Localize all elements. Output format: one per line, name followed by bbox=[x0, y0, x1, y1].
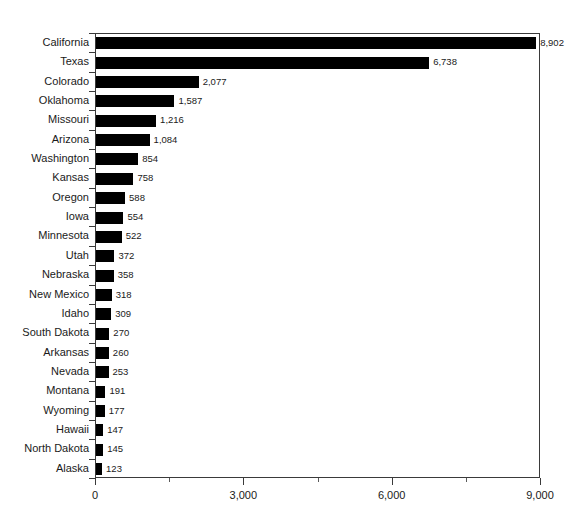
y-axis-tick bbox=[89, 343, 95, 344]
category-label: Texas bbox=[1, 54, 89, 68]
y-axis-tick bbox=[89, 52, 95, 53]
bar[interactable] bbox=[96, 386, 105, 398]
category-label: Idaho bbox=[1, 306, 89, 320]
x-axis-minor-tick bbox=[466, 478, 467, 482]
y-axis-tick bbox=[89, 226, 95, 227]
x-axis-tick bbox=[95, 478, 96, 485]
bar-value-label: 260 bbox=[113, 346, 129, 360]
y-axis-tick bbox=[89, 207, 95, 208]
bar[interactable] bbox=[96, 173, 133, 185]
y-axis-tick bbox=[89, 33, 95, 34]
y-axis-tick bbox=[89, 168, 95, 169]
bar[interactable] bbox=[96, 270, 114, 282]
plot-area: 8,9026,7382,0771,5871,2161,0848547585885… bbox=[95, 33, 540, 478]
bar-row: 123 bbox=[96, 460, 539, 479]
bar[interactable] bbox=[96, 289, 112, 301]
y-axis-tick bbox=[89, 130, 95, 131]
y-axis-tick bbox=[89, 323, 95, 324]
bar[interactable] bbox=[96, 76, 199, 88]
category-label: California bbox=[1, 35, 89, 49]
bar-value-label: 8,902 bbox=[540, 36, 564, 50]
bar-value-label: 588 bbox=[129, 191, 145, 205]
y-axis-tick bbox=[89, 304, 95, 305]
bar-value-label: 554 bbox=[127, 210, 143, 224]
bar-value-label: 270 bbox=[113, 326, 129, 340]
y-axis-tick bbox=[89, 91, 95, 92]
bar-value-label: 2,077 bbox=[203, 75, 227, 89]
category-label: Nevada bbox=[1, 364, 89, 378]
category-label: Utah bbox=[1, 248, 89, 262]
category-label: Alaska bbox=[1, 461, 89, 475]
bar-value-label: 145 bbox=[107, 442, 123, 456]
y-axis-tick bbox=[89, 188, 95, 189]
bar-row: 522 bbox=[96, 227, 539, 246]
x-axis-tick bbox=[540, 478, 541, 485]
bar-row: 260 bbox=[96, 344, 539, 363]
x-axis-minor-tick bbox=[169, 478, 170, 482]
category-label: Wyoming bbox=[1, 403, 89, 417]
category-label: Oregon bbox=[1, 190, 89, 204]
category-label: Montana bbox=[1, 383, 89, 397]
bar-value-label: 6,738 bbox=[433, 55, 457, 69]
bar-value-label: 253 bbox=[113, 365, 129, 379]
y-axis-tick bbox=[89, 285, 95, 286]
bar-value-label: 318 bbox=[116, 288, 132, 302]
bar[interactable] bbox=[96, 347, 109, 359]
category-label: Kansas bbox=[1, 170, 89, 184]
x-axis-tick-label: 9,000 bbox=[526, 488, 554, 502]
bar-value-label: 1,587 bbox=[178, 94, 202, 108]
bar-value-label: 1,216 bbox=[160, 113, 184, 127]
bar[interactable] bbox=[96, 115, 156, 127]
bar[interactable] bbox=[96, 424, 103, 436]
y-axis-tick bbox=[89, 246, 95, 247]
x-axis-tick-label: 6,000 bbox=[378, 488, 406, 502]
category-axis: CaliforniaTexasColoradoOklahomaMissouriA… bbox=[0, 33, 89, 478]
category-label: Colorado bbox=[1, 74, 89, 88]
bar[interactable] bbox=[96, 153, 138, 165]
bar-value-label: 372 bbox=[118, 249, 134, 263]
bar-value-label: 758 bbox=[137, 171, 153, 185]
bar-row: 554 bbox=[96, 208, 539, 227]
bar-row: 177 bbox=[96, 402, 539, 421]
x-axis-tick-label: 0 bbox=[92, 488, 98, 502]
category-label: New Mexico bbox=[1, 287, 89, 301]
bar[interactable] bbox=[96, 37, 536, 49]
bar[interactable] bbox=[96, 405, 105, 417]
y-axis-tick bbox=[89, 149, 95, 150]
y-axis-tick bbox=[89, 420, 95, 421]
y-axis-tick bbox=[89, 478, 95, 479]
bar[interactable] bbox=[96, 366, 109, 378]
category-label: Iowa bbox=[1, 209, 89, 223]
bar[interactable] bbox=[96, 463, 102, 475]
bar[interactable] bbox=[96, 308, 111, 320]
category-label: South Dakota bbox=[1, 325, 89, 339]
bar[interactable] bbox=[96, 95, 174, 107]
bar-value-label: 309 bbox=[115, 307, 131, 321]
bar[interactable] bbox=[96, 250, 114, 262]
bar-row: 2,077 bbox=[96, 73, 539, 92]
bar[interactable] bbox=[96, 328, 109, 340]
y-axis-tick bbox=[89, 459, 95, 460]
bar[interactable] bbox=[96, 444, 103, 456]
bar-row: 6,738 bbox=[96, 53, 539, 72]
category-label: Washington bbox=[1, 151, 89, 165]
bar[interactable] bbox=[96, 231, 122, 243]
bar-value-label: 191 bbox=[109, 384, 125, 398]
bar-value-label: 522 bbox=[126, 229, 142, 243]
y-axis-tick bbox=[89, 439, 95, 440]
category-label: Arkansas bbox=[1, 345, 89, 359]
bar[interactable] bbox=[96, 192, 125, 204]
bar[interactable] bbox=[96, 57, 429, 69]
bar-row: 758 bbox=[96, 169, 539, 188]
bar-value-label: 358 bbox=[118, 268, 134, 282]
bar[interactable] bbox=[96, 134, 150, 146]
bar-value-label: 854 bbox=[142, 152, 158, 166]
category-label: Hawaii bbox=[1, 422, 89, 436]
bar-row: 318 bbox=[96, 286, 539, 305]
x-axis-minor-tick bbox=[318, 478, 319, 482]
x-axis-tick bbox=[392, 478, 393, 485]
bar[interactable] bbox=[96, 212, 123, 224]
x-axis-tick-label: 3,000 bbox=[230, 488, 258, 502]
x-axis-tick bbox=[243, 478, 244, 485]
y-axis-tick bbox=[89, 401, 95, 402]
